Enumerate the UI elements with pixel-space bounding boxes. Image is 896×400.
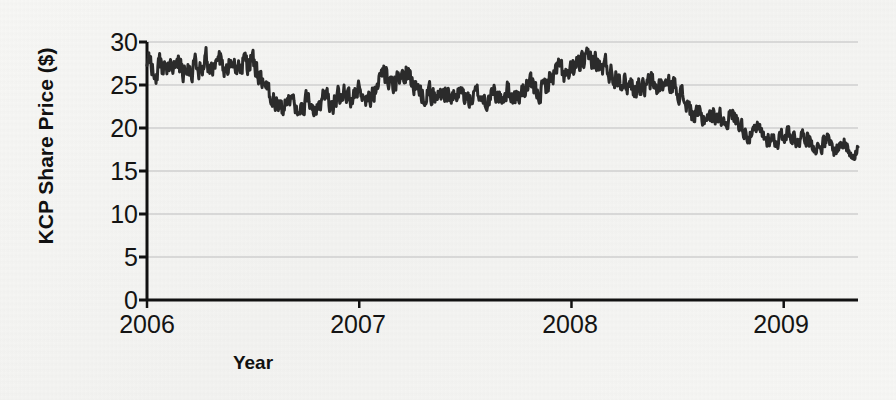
gridlines — [147, 42, 858, 257]
price-line — [147, 47, 858, 159]
chart-figure: KCP Share Price ($) Year 30 25 20 15 10 … — [0, 0, 896, 400]
plot-area — [0, 0, 896, 400]
